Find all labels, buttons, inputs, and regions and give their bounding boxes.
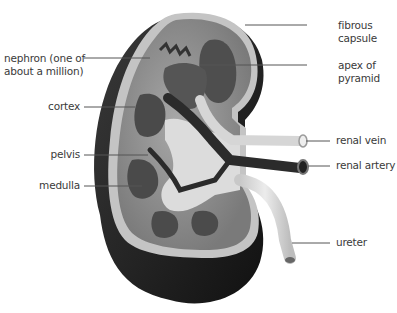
label-fibrous-capsule-line1: fibrous (338, 19, 377, 32)
label-apex-of-pyramid: apex of pyramid (338, 59, 380, 85)
label-apex-line1: apex of (338, 59, 380, 72)
renal-artery-opening (298, 160, 308, 174)
label-renal-vein: renal vein (336, 134, 386, 147)
label-ureter: ureter (336, 236, 367, 249)
label-fibrous-capsule-line2: capsule (338, 32, 377, 45)
label-medulla: medulla (4, 179, 80, 192)
label-pelvis: pelvis (4, 148, 80, 161)
label-nephron: nephron (one of about a million) (4, 52, 82, 78)
label-nephron-line1: nephron (one of (4, 52, 82, 65)
label-nephron-line2: about a million) (4, 65, 82, 78)
ureter-opening (285, 257, 295, 263)
label-renal-artery: renal artery (336, 159, 395, 172)
pyramid-bottom-right (191, 211, 218, 236)
label-fibrous-capsule: fibrous capsule (338, 19, 377, 45)
label-cortex: cortex (4, 100, 80, 113)
label-apex-line2: pyramid (338, 72, 380, 85)
renal-vein-opening (299, 135, 307, 147)
